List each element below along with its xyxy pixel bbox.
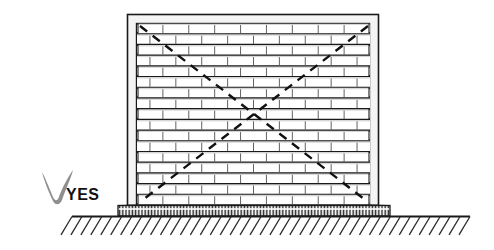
verdict-label: YES [66, 186, 100, 204]
illustration-canvas: YES [0, 0, 494, 250]
ground-hatching [61, 217, 470, 235]
ground [61, 217, 470, 235]
masonry-wall-diagram [0, 0, 494, 250]
foundation-footing [118, 205, 390, 216]
